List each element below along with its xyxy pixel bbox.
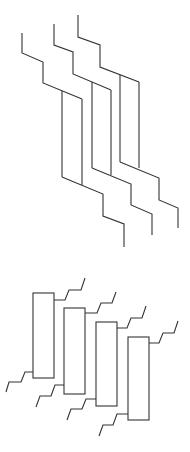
lower-rectangle-components: [6, 278, 178, 436]
lead-top-right: [85, 292, 116, 313]
component-body: [64, 308, 85, 394]
lead-bottom-left: [6, 372, 33, 392]
path-3: [78, 15, 178, 228]
lead-bottom-segment: [92, 168, 152, 235]
component-body: [128, 337, 149, 420]
lead-top-segment: [54, 24, 111, 90]
upper-staggered-lead-paths: [22, 15, 178, 247]
lead-bottom-segment: [62, 177, 124, 247]
lead-top-right: [149, 321, 178, 343]
lead-bottom-segment: [120, 162, 178, 228]
line-drawing: [0, 0, 190, 452]
component-body: [33, 293, 54, 378]
lead-top-right: [117, 306, 146, 328]
lead-top-segment: [78, 15, 139, 82]
component-body: [96, 322, 117, 406]
lead-bottom-left: [67, 399, 96, 420]
lead-bottom-left: [36, 385, 64, 407]
lead-bottom-left: [99, 414, 128, 436]
lead-top-right: [54, 278, 85, 300]
diagram-canvas: [0, 0, 190, 452]
